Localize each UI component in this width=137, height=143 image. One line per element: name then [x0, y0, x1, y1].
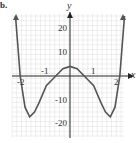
- y-tick-neg20: -20: [55, 118, 67, 128]
- x-tick-neg1: -1: [41, 66, 49, 76]
- y-tick-20: 20: [58, 23, 67, 33]
- curve-arrow-left: [13, 14, 19, 20]
- x-tick-1: 1: [91, 66, 96, 76]
- x-tick-2: 2: [114, 77, 119, 87]
- x-axis-label: x: [131, 69, 135, 80]
- x-tick-neg2: -2: [17, 77, 25, 87]
- y-axis-label: y: [67, 0, 71, 11]
- y-tick-neg10: -10: [55, 95, 67, 105]
- y-tick-10: 10: [58, 47, 67, 57]
- y-axis-arrow: [67, 12, 73, 18]
- chart: [0, 0, 137, 143]
